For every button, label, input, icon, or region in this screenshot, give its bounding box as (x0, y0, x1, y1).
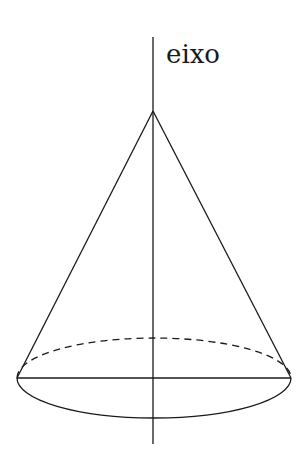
base-back-arc (17, 338, 291, 378)
cone-diagram: eixo (0, 0, 305, 456)
cone-left-side (17, 111, 153, 378)
axis-label: eixo (166, 39, 220, 69)
base-front-arc (17, 378, 291, 418)
